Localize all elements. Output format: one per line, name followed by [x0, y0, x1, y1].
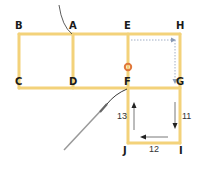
label-E: E — [124, 20, 131, 31]
label-A: A — [69, 20, 77, 31]
label-J: J — [122, 145, 127, 156]
label-D: D — [69, 76, 77, 87]
label-B: B — [15, 20, 23, 31]
label-F: F — [124, 76, 131, 87]
step-number-12: 12 — [149, 144, 159, 154]
stitch-diagram: B A E H C D F G J I 11 12 13 — [0, 0, 200, 181]
label-H: H — [176, 20, 184, 31]
step-number-11: 11 — [182, 111, 191, 121]
arrow-down-icon — [173, 123, 178, 129]
solid-arrows — [134, 102, 175, 137]
square-edges — [19, 34, 180, 143]
arrow-left-icon — [140, 135, 146, 140]
dotted-arrow-path — [131, 40, 175, 80]
step-number-13: 13 — [117, 111, 127, 121]
label-G: G — [176, 76, 184, 87]
label-C: C — [15, 76, 22, 87]
arrow-up-icon — [132, 102, 137, 108]
label-I: I — [179, 145, 183, 156]
arrow-head-right-icon — [171, 38, 176, 43]
